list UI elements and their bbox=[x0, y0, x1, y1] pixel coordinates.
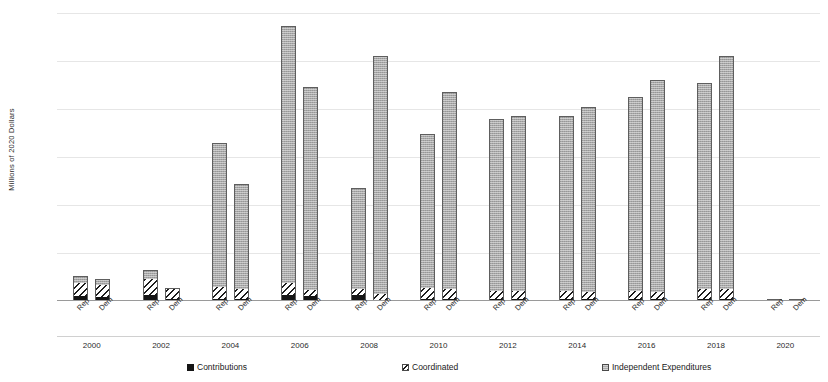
x-axis-year-2018: 2018 bbox=[681, 341, 750, 350]
gridline bbox=[57, 13, 820, 14]
bar-segment-indep bbox=[720, 57, 733, 288]
bar-2006-dem[interactable] bbox=[303, 87, 318, 301]
x-axis-year-rule bbox=[57, 336, 820, 337]
legend-item-independent-expenditures[interactable]: Independent Expenditures bbox=[602, 362, 711, 372]
bar-2018-rep[interactable] bbox=[697, 83, 712, 301]
bar-segment-indep bbox=[374, 57, 387, 294]
bar-segment-indep bbox=[304, 88, 317, 289]
bar-2008-rep[interactable] bbox=[351, 188, 366, 301]
bar-segment-indep bbox=[560, 117, 573, 291]
bar-2018-dem[interactable] bbox=[719, 56, 734, 301]
bar-segment-indep bbox=[582, 108, 595, 292]
legend-label: Independent Expenditures bbox=[612, 362, 711, 372]
x-axis-year-2006: 2006 bbox=[265, 341, 334, 350]
legend-label: Coordinated bbox=[412, 362, 458, 372]
bar-segment-indep bbox=[629, 98, 642, 291]
bar-segment-indep bbox=[490, 120, 503, 291]
bar-2008-dem[interactable] bbox=[373, 56, 388, 301]
bar-2010-rep[interactable] bbox=[420, 134, 435, 301]
y-axis-title: Millions of 2020 Dollars bbox=[7, 85, 16, 215]
bar-segment-coord bbox=[282, 283, 295, 295]
legend-swatch-icon bbox=[187, 364, 194, 371]
x-axis-year-2002: 2002 bbox=[126, 341, 195, 350]
gridline bbox=[57, 61, 820, 62]
bar-segment-indep bbox=[651, 81, 664, 292]
legend-label: Contributions bbox=[197, 362, 247, 372]
bar-2016-dem[interactable] bbox=[650, 80, 665, 301]
x-axis-year-2010: 2010 bbox=[404, 341, 473, 350]
x-axis-year-2000: 2000 bbox=[57, 341, 126, 350]
x-axis-year-2004: 2004 bbox=[196, 341, 265, 350]
x-axis-year-2016: 2016 bbox=[612, 341, 681, 350]
bar-segment-indep bbox=[698, 84, 711, 289]
bar-segment-coord bbox=[74, 283, 87, 297]
x-axis-year-2012: 2012 bbox=[473, 341, 542, 350]
bar-segment-indep bbox=[282, 27, 295, 283]
legend-item-coordinated[interactable]: Coordinated bbox=[402, 362, 458, 372]
plot-area bbox=[57, 13, 820, 301]
bar-2010-dem[interactable] bbox=[442, 92, 457, 301]
bar-2004-dem[interactable] bbox=[234, 184, 249, 301]
bar-2016-rep[interactable] bbox=[628, 97, 643, 301]
bar-2004-rep[interactable] bbox=[212, 143, 227, 301]
bar-2012-dem[interactable] bbox=[511, 116, 526, 301]
bar-segment-indep bbox=[144, 271, 157, 279]
x-axis-year-2020: 2020 bbox=[751, 341, 820, 350]
legend-swatch-icon bbox=[602, 364, 609, 371]
bar-chart: Millions of 2020 Dollars $0$20$40$60$80$… bbox=[0, 0, 828, 382]
chart-legend: ContributionsCoordinatedIndependent Expe… bbox=[57, 362, 820, 378]
legend-item-contributions[interactable]: Contributions bbox=[187, 362, 247, 372]
bar-segment-indep bbox=[512, 117, 525, 291]
bar-2014-dem[interactable] bbox=[581, 107, 596, 301]
bar-segment-indep bbox=[235, 185, 248, 289]
x-axis-year-2008: 2008 bbox=[334, 341, 403, 350]
bar-2014-rep[interactable] bbox=[559, 116, 574, 301]
bar-segment-indep bbox=[213, 144, 226, 287]
bar-segment-indep bbox=[443, 93, 456, 288]
legend-swatch-icon bbox=[402, 364, 409, 371]
x-axis-year-2014: 2014 bbox=[543, 341, 612, 350]
bar-2012-rep[interactable] bbox=[489, 119, 504, 301]
bar-segment-indep bbox=[421, 135, 434, 288]
bar-segment-indep bbox=[352, 189, 365, 289]
bar-2006-rep[interactable] bbox=[281, 26, 296, 301]
bar-segment-coord bbox=[144, 279, 157, 296]
